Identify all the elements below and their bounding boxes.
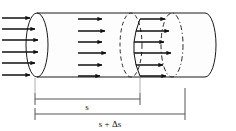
flow-diagram-figure: s s + Δs [0,0,236,131]
dimension-extension-lines [35,78,140,93]
pipe-flow-diagram: s s + Δs [0,0,236,131]
dimension-s-plus-delta-s [35,88,185,120]
dimension-s-plus-delta-s-label: s + Δs [99,119,122,129]
inflow-arrows [2,18,38,75]
pipe-body [37,13,216,77]
dimension-s-label: s [85,102,89,112]
